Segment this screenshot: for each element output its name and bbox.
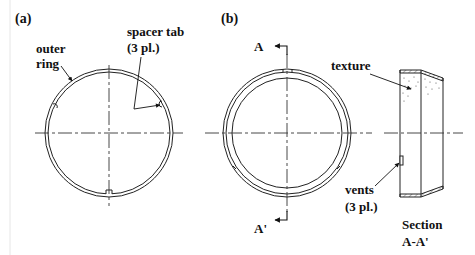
vents-leader — [375, 163, 399, 186]
texture-leader — [370, 74, 411, 89]
spacer-tab-leader — [134, 57, 160, 109]
outer-ring-leader — [61, 66, 72, 81]
spacer-tab-label-line1: spacer tab — [127, 24, 184, 39]
vents-label-line2: (3 pl.) — [345, 199, 378, 214]
spacer-tabs-a — [53, 101, 162, 195]
section-title-line2: A-A' — [402, 234, 429, 249]
section-arrow-bottom — [275, 211, 287, 220]
centerlines-a — [35, 65, 183, 206]
vent — [400, 156, 403, 165]
section-arrow-top — [275, 46, 287, 55]
outer-ring-label-line2: ring — [36, 56, 59, 71]
outer-ring-label-line1: outer — [36, 41, 66, 56]
spacer-tab-label-line2: (3 pl.) — [127, 40, 160, 55]
vents-label-line1: vents — [345, 182, 374, 197]
diagram-canvas: (a) outer ring spacer tab (3 pl.) (b) A … — [0, 0, 475, 255]
leaders-b — [370, 74, 411, 186]
panel-label-b: (b) — [221, 11, 238, 26]
section-title-line1: Section — [402, 217, 442, 232]
leaders-a — [61, 57, 160, 109]
texture-label: texture — [331, 58, 370, 73]
panel-label-a: (a) — [15, 11, 31, 26]
section-mark-bottom: A' — [254, 221, 267, 236]
section-mark-top: A — [254, 39, 263, 54]
section-view — [400, 70, 443, 197]
